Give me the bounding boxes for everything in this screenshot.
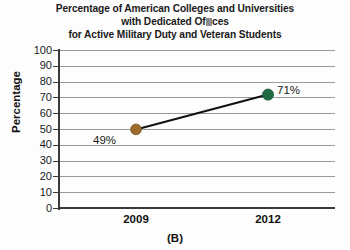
series-line-segment bbox=[136, 95, 268, 130]
data-label-2009: 49% bbox=[93, 134, 116, 146]
figure-caption: (B) bbox=[0, 232, 350, 244]
chart-figure: Percentage of American Colleges and Univ… bbox=[0, 0, 350, 250]
x-tick-label-2009: 2009 bbox=[101, 213, 171, 225]
x-tick-label-2012: 2012 bbox=[233, 213, 303, 225]
data-point-marker-2009[interactable] bbox=[131, 124, 142, 135]
data-point-marker-2012[interactable] bbox=[262, 89, 273, 100]
data-label-2012: 71% bbox=[277, 84, 300, 96]
